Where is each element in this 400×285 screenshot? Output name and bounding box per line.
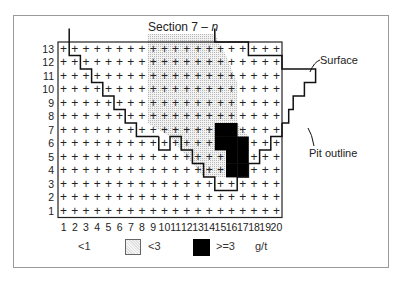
svg-text:+: + xyxy=(262,163,269,177)
svg-text:+: + xyxy=(250,190,257,204)
svg-text:+: + xyxy=(239,109,246,123)
svg-text:+: + xyxy=(262,55,269,69)
svg-text:10: 10 xyxy=(42,83,54,95)
svg-text:+: + xyxy=(172,55,179,69)
svg-text:+: + xyxy=(116,163,123,177)
svg-text:10: 10 xyxy=(159,221,171,233)
svg-text:+: + xyxy=(262,69,269,83)
svg-text:+: + xyxy=(217,163,224,177)
svg-text:5: 5 xyxy=(105,221,111,233)
svg-text:+: + xyxy=(71,177,78,191)
svg-text:+: + xyxy=(228,82,235,96)
svg-text:+: + xyxy=(194,109,201,123)
svg-text:+: + xyxy=(161,163,168,177)
svg-text:2: 2 xyxy=(48,191,54,203)
svg-text:+: + xyxy=(239,82,246,96)
svg-text:+: + xyxy=(60,190,67,204)
svg-text:+: + xyxy=(71,150,78,164)
svg-text:+: + xyxy=(239,69,246,83)
svg-text:12: 12 xyxy=(181,221,193,233)
svg-text:+: + xyxy=(250,123,257,137)
svg-text:+: + xyxy=(127,177,134,191)
svg-text:+: + xyxy=(206,177,213,191)
svg-text:18: 18 xyxy=(248,221,260,233)
svg-text:+: + xyxy=(82,204,89,218)
svg-text:+: + xyxy=(138,136,145,150)
svg-text:+: + xyxy=(127,96,134,110)
svg-text:+: + xyxy=(82,69,89,83)
svg-text:+: + xyxy=(138,177,145,191)
svg-text:+: + xyxy=(150,150,157,164)
svg-text:19: 19 xyxy=(259,221,271,233)
svg-text:+: + xyxy=(94,204,101,218)
svg-text:+: + xyxy=(250,136,257,150)
svg-text:+: + xyxy=(262,136,269,150)
svg-text:+: + xyxy=(273,163,280,177)
svg-text:+: + xyxy=(138,55,145,69)
svg-text:+: + xyxy=(94,82,101,96)
svg-text:+: + xyxy=(82,190,89,204)
legend-unit: g/t xyxy=(255,240,267,252)
svg-text:+: + xyxy=(273,190,280,204)
svg-text:+: + xyxy=(116,82,123,96)
svg-text:+: + xyxy=(262,109,269,123)
svg-text:+: + xyxy=(217,177,224,191)
svg-text:+: + xyxy=(161,150,168,164)
svg-text:+: + xyxy=(206,204,213,218)
svg-text:+: + xyxy=(172,150,179,164)
svg-text:+: + xyxy=(194,55,201,69)
svg-text:+: + xyxy=(60,136,67,150)
svg-text:+: + xyxy=(206,163,213,177)
svg-text:+: + xyxy=(161,42,168,56)
svg-text:+: + xyxy=(116,204,123,218)
svg-text:+: + xyxy=(273,55,280,69)
svg-text:+: + xyxy=(150,136,157,150)
svg-text:+: + xyxy=(71,190,78,204)
svg-text:+: + xyxy=(250,55,257,69)
svg-text:+: + xyxy=(94,163,101,177)
svg-text:+: + xyxy=(105,69,112,83)
svg-text:+: + xyxy=(250,163,257,177)
svg-text:+: + xyxy=(183,42,190,56)
svg-text:+: + xyxy=(172,136,179,150)
svg-text:+: + xyxy=(194,190,201,204)
svg-text:+: + xyxy=(183,96,190,110)
svg-text:+: + xyxy=(183,150,190,164)
svg-text:+: + xyxy=(127,190,134,204)
svg-text:+: + xyxy=(206,109,213,123)
svg-text:+: + xyxy=(161,82,168,96)
svg-text:+: + xyxy=(138,123,145,137)
svg-text:+: + xyxy=(105,163,112,177)
svg-text:+: + xyxy=(273,96,280,110)
svg-text:+: + xyxy=(273,150,280,164)
svg-text:+: + xyxy=(82,177,89,191)
svg-text:+: + xyxy=(172,204,179,218)
svg-text:+: + xyxy=(194,96,201,110)
svg-text:2: 2 xyxy=(72,221,78,233)
svg-text:+: + xyxy=(60,55,67,69)
svg-text:+: + xyxy=(94,150,101,164)
svg-text:+: + xyxy=(239,55,246,69)
legend-solid-swatch xyxy=(193,239,210,256)
svg-text:+: + xyxy=(71,163,78,177)
svg-text:+: + xyxy=(183,177,190,191)
svg-text:+: + xyxy=(60,96,67,110)
svg-text:16: 16 xyxy=(226,221,238,233)
svg-text:+: + xyxy=(82,123,89,137)
surface-label: Surface xyxy=(320,54,358,66)
svg-text:+: + xyxy=(138,163,145,177)
svg-text:+: + xyxy=(105,55,112,69)
svg-text:+: + xyxy=(127,55,134,69)
svg-text:+: + xyxy=(105,136,112,150)
svg-text:+: + xyxy=(262,123,269,137)
svg-text:+: + xyxy=(138,42,145,56)
svg-text:+: + xyxy=(94,123,101,137)
svg-text:+: + xyxy=(161,190,168,204)
svg-text:6: 6 xyxy=(117,221,123,233)
svg-text:+: + xyxy=(239,123,246,137)
svg-text:+: + xyxy=(194,42,201,56)
svg-text:+: + xyxy=(228,204,235,218)
svg-text:+: + xyxy=(183,123,190,137)
svg-text:+: + xyxy=(262,190,269,204)
svg-text:+: + xyxy=(127,150,134,164)
